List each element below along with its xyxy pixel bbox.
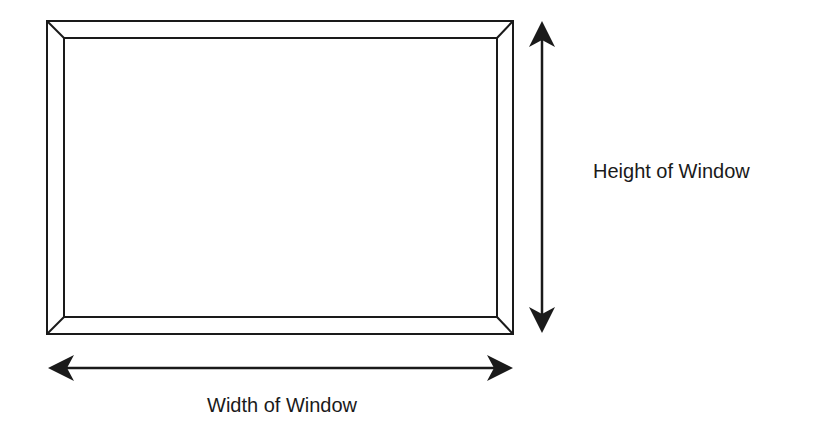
frame-miter-bottom-left <box>47 317 64 334</box>
window-outer-frame <box>47 21 513 334</box>
frame-miter-bottom-right <box>497 317 513 334</box>
height-label: Height of Window <box>593 160 750 183</box>
height-arrow-icon <box>529 21 555 333</box>
window-frame <box>47 21 513 334</box>
window-diagram <box>0 0 833 435</box>
frame-miter-top-right <box>497 21 513 38</box>
width-arrow-icon <box>48 355 513 381</box>
window-inner-pane <box>64 38 497 317</box>
frame-miter-top-left <box>47 21 64 38</box>
width-label: Width of Window <box>207 394 357 417</box>
